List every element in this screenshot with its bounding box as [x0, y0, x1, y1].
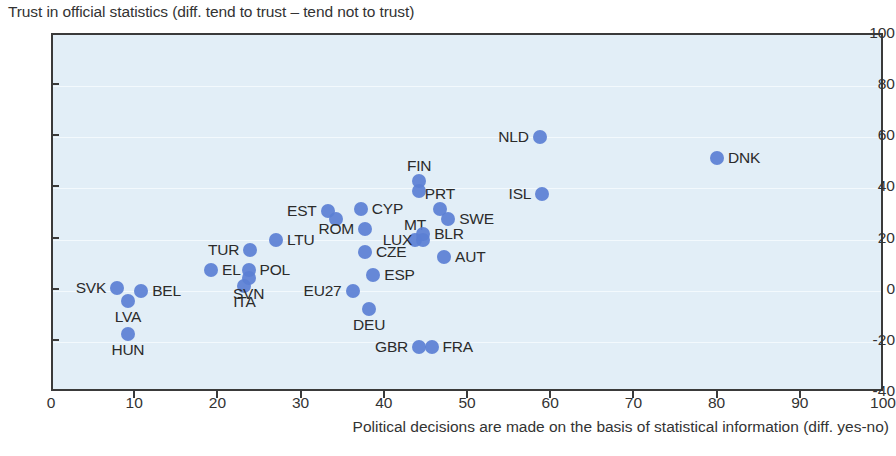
y-tick-mark-40 — [51, 185, 59, 187]
data-point-cze — [358, 245, 372, 259]
data-point-ltu — [269, 233, 283, 247]
y-tick-label-0: 0 — [851, 280, 895, 298]
y-tick-mark-80 — [51, 83, 59, 85]
point-label-svn: SVN — [233, 285, 264, 303]
point-label-tur: TUR — [208, 241, 239, 259]
point-label-isl: ISL — [509, 185, 532, 203]
data-point-esp — [366, 268, 380, 282]
data-point-isl — [535, 187, 549, 201]
data-point-el — [204, 263, 218, 277]
x-tick-mark-50 — [466, 391, 468, 398]
data-point-bel — [134, 284, 148, 298]
y-tick-label-80: 80 — [851, 75, 895, 93]
point-label-blr: BLR — [434, 225, 464, 243]
point-label-eu27: EU27 — [304, 282, 342, 300]
y-tick-label-40: 40 — [851, 177, 895, 195]
data-point-cyp — [354, 202, 368, 216]
y-tick-mark--20 — [51, 339, 59, 341]
data-point-deu — [362, 302, 376, 316]
data-point-gbr — [412, 340, 426, 354]
data-point-svk — [110, 281, 124, 295]
point-label-ltu: LTU — [287, 231, 315, 249]
gridline-y-20 — [53, 240, 881, 241]
point-label-prt: PRT — [425, 185, 455, 203]
gridline-y-80 — [53, 86, 881, 87]
x-tick-mark-40 — [383, 391, 385, 398]
point-label-svk: SVK — [76, 279, 106, 297]
point-label-dnk: DNK — [728, 149, 760, 167]
point-label-fra: FRA — [443, 338, 473, 356]
point-label-nld: NLD — [498, 128, 528, 146]
point-label-pol: POL — [260, 261, 290, 279]
point-label-rom: ROM — [318, 220, 354, 238]
point-label-esp: ESP — [384, 266, 414, 284]
point-label-hun: HUN — [111, 341, 144, 359]
y-tick-mark-0 — [51, 288, 59, 290]
y-tick-label-20: 20 — [851, 229, 895, 247]
data-point-swe — [441, 212, 455, 226]
x-tick-mark-30 — [300, 391, 302, 398]
x-tick-mark-80 — [716, 391, 718, 398]
point-label-el: EL — [222, 261, 241, 279]
x-tick-mark-20 — [216, 391, 218, 398]
x-tick-mark-90 — [799, 391, 801, 398]
x-tick-mark-60 — [549, 391, 551, 398]
data-point-fra — [425, 340, 439, 354]
gridline-y-60 — [53, 137, 881, 138]
x-tick-mark-70 — [632, 391, 634, 398]
data-point-rom — [358, 222, 372, 236]
point-label-est: EST — [287, 202, 317, 220]
data-point-pol — [242, 263, 256, 277]
data-point-eu27 — [346, 284, 360, 298]
data-point-nld — [533, 130, 547, 144]
point-label-lva: LVA — [115, 308, 141, 326]
point-label-cyp: CYP — [372, 200, 403, 218]
point-label-bel: BEL — [152, 282, 181, 300]
y-tick-label-100: 100 — [851, 24, 895, 42]
data-point-hun — [121, 327, 135, 341]
y-tick-mark-20 — [51, 237, 59, 239]
data-point-lva — [121, 294, 135, 308]
point-label-aut: AUT — [455, 248, 485, 266]
data-point-dnk — [710, 151, 724, 165]
gridline-y-40 — [53, 188, 881, 189]
x-axis-title: Political decisions are made on the basi… — [353, 418, 889, 436]
data-point-aut — [437, 250, 451, 264]
y-tick-mark-60 — [51, 134, 59, 136]
plot-area: SVKLVABELHUNELITASVNPOLTURLTUESTCYPROMCZ… — [51, 33, 883, 391]
x-tick-mark-10 — [133, 391, 135, 398]
data-point-tur — [243, 243, 257, 257]
point-label-swe: SWE — [459, 210, 494, 228]
point-label-fin: FIN — [407, 157, 431, 175]
y-tick-label--20: -20 — [851, 331, 895, 349]
point-label-lux: LUX — [383, 231, 413, 249]
chart-title: Trust in official statistics (diff. tend… — [8, 3, 414, 21]
y-tick-label-60: 60 — [851, 126, 895, 144]
x-tick-label-0: 0 — [47, 394, 56, 412]
point-label-gbr: GBR — [375, 338, 408, 356]
point-label-deu: DEU — [353, 316, 385, 334]
x-tick-label-100: 100 — [870, 394, 896, 412]
